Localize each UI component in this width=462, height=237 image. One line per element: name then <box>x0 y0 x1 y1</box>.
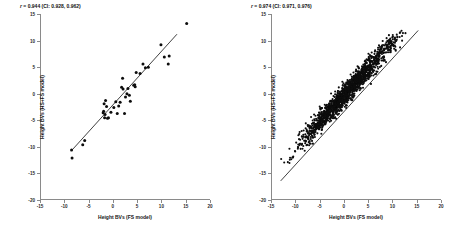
x-tick-mark <box>113 200 114 203</box>
x-tick-mark <box>441 200 442 203</box>
x-tick-label: -10 <box>292 204 299 209</box>
x-tick-mark <box>271 200 272 203</box>
y-tick-label: 5 <box>32 65 35 70</box>
y-tick-label: 10 <box>30 38 35 43</box>
x-tick-mark <box>392 200 393 203</box>
x-tick-mark <box>417 200 418 203</box>
x-tick-mark <box>89 200 90 203</box>
scatter-points-right <box>271 14 441 200</box>
x-tick-mark <box>40 200 41 203</box>
x-tick-label: 10 <box>390 204 395 209</box>
y-axis-title-right: Height BVs (HS+FS model) <box>270 75 276 139</box>
y-tick-label: 0 <box>32 91 35 96</box>
x-tick-label: -15 <box>268 204 275 209</box>
plot-area-right: 151050-5-10-15-20 -15-10-505101520 Heigh… <box>271 14 441 200</box>
y-tick-label: -5 <box>262 118 266 123</box>
x-tick-mark <box>368 200 369 203</box>
y-tick-label: -5 <box>31 118 35 123</box>
panel-right: r = 0.974 (CI: 0.971, 0.976) 151050-5-10… <box>231 0 462 237</box>
correlation-annotation-right: r = 0.974 (CI: 0.971, 0.976) <box>251 3 312 9</box>
x-tick-label: -5 <box>318 204 322 209</box>
y-tick-label: -10 <box>28 144 35 149</box>
x-tick-label: 15 <box>414 204 419 209</box>
y-tick-label: -20 <box>28 198 35 203</box>
y-tick-label: -15 <box>259 171 266 176</box>
scatter-points-left <box>40 14 210 200</box>
figure-two-scatter-panels: r = 0.944 (CI: 0.928, 0.962) 151050-5-10… <box>0 0 462 237</box>
x-tick-label: 20 <box>438 204 443 209</box>
x-tick-mark <box>344 200 345 203</box>
x-tick-label: -5 <box>87 204 91 209</box>
y-tick-label: 5 <box>263 65 266 70</box>
x-tick-mark <box>186 200 187 203</box>
y-tick-label: 15 <box>261 12 266 17</box>
x-tick-label: -10 <box>61 204 68 209</box>
x-axis-title-left: Height BVs (FS model) <box>40 214 210 220</box>
x-tick-label: -15 <box>37 204 44 209</box>
r-value-left: = 0.944 (CI: 0.928, 0.962) <box>22 3 81 9</box>
x-tick-mark <box>210 200 211 203</box>
x-tick-label: 0 <box>343 204 346 209</box>
y-tick-label: -10 <box>259 144 266 149</box>
correlation-annotation-left: r = 0.944 (CI: 0.928, 0.962) <box>20 3 81 9</box>
x-tick-mark <box>137 200 138 203</box>
x-tick-mark <box>64 200 65 203</box>
x-tick-label: 5 <box>136 204 139 209</box>
x-tick-mark <box>295 200 296 203</box>
x-tick-mark <box>320 200 321 203</box>
y-tick-label: -20 <box>259 198 266 203</box>
panel-left: r = 0.944 (CI: 0.928, 0.962) 151050-5-10… <box>0 0 231 237</box>
y-tick-label: 0 <box>263 91 266 96</box>
y-tick-label: 15 <box>30 12 35 17</box>
x-tick-label: 15 <box>183 204 188 209</box>
x-tick-label: 5 <box>367 204 370 209</box>
x-tick-label: 20 <box>207 204 212 209</box>
x-tick-mark <box>161 200 162 203</box>
plot-area-left: 151050-5-10-15-20 -15-10-505101520 Heigh… <box>40 14 210 200</box>
r-value-right: = 0.974 (CI: 0.971, 0.976) <box>253 3 312 9</box>
y-tick-label: 10 <box>261 38 266 43</box>
y-tick-label: -15 <box>28 171 35 176</box>
x-tick-label: 10 <box>159 204 164 209</box>
x-axis-title-right: Height BVs (FS model) <box>271 214 441 220</box>
y-axis-title-left: Height BVs (HS+FS model) <box>39 75 45 139</box>
x-tick-label: 0 <box>112 204 115 209</box>
